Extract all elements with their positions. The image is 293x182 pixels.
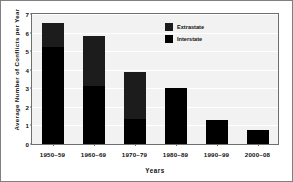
- gridline: [32, 107, 278, 108]
- y-tick-label: 4: [26, 66, 29, 73]
- y-tick-mark: [30, 144, 32, 145]
- bar-segment-interstate: [124, 119, 146, 144]
- plot-area: 01234567 1950–591960–691970–791980–89199…: [31, 13, 279, 145]
- legend-label: Extrastate: [177, 24, 204, 30]
- bar-stack: [247, 130, 269, 144]
- bar-stack: [165, 88, 187, 144]
- chart-legend: ExtrastateInterstate: [165, 23, 204, 43]
- x-tick-mark: [53, 144, 54, 146]
- bar-segment-interstate: [247, 130, 269, 144]
- y-tick-mark: [30, 14, 32, 15]
- legend-swatch-icon: [165, 23, 173, 31]
- bar-stack: [42, 23, 64, 144]
- y-tick-label: 3: [26, 85, 29, 92]
- y-tick-mark: [30, 125, 32, 126]
- x-tick-label: 1970–79: [122, 151, 148, 158]
- y-tick-label: 0: [26, 141, 29, 148]
- y-tick-label: 1: [26, 122, 29, 129]
- gridline: [32, 33, 278, 34]
- x-tick-label: 1990–99: [204, 151, 230, 158]
- gridline: [32, 14, 278, 15]
- y-axis-title: Average Number of Conflicts per Year: [13, 0, 20, 140]
- bar-segment-interstate: [83, 86, 105, 145]
- y-tick-mark: [30, 69, 32, 70]
- y-tick-label: 6: [26, 29, 29, 36]
- bar-segment-interstate: [165, 88, 187, 144]
- bar-stack: [206, 120, 228, 144]
- y-tick-mark: [30, 106, 32, 107]
- gridline: [32, 51, 278, 52]
- y-tick-label: 5: [26, 48, 29, 55]
- gridline: [32, 88, 278, 89]
- chart-figure: Average Number of Conflicts per Year 012…: [0, 0, 293, 182]
- legend-label: Interstate: [177, 36, 202, 42]
- y-tick-label: 7: [26, 11, 29, 18]
- bar-segment-interstate: [42, 47, 64, 145]
- x-tick-mark: [176, 144, 177, 146]
- y-tick-label: 2: [26, 103, 29, 110]
- x-tick-label: 2000–08: [245, 151, 271, 158]
- gridline: [32, 70, 278, 71]
- x-axis-title: Years: [31, 167, 279, 174]
- y-tick-mark: [30, 32, 32, 33]
- y-tick-mark: [30, 88, 32, 89]
- bar-segment-interstate: [206, 120, 228, 144]
- x-tick-mark: [135, 144, 136, 146]
- y-tick-mark: [30, 51, 32, 52]
- x-tick-label: 1980–89: [163, 151, 189, 158]
- x-tick-mark: [217, 144, 218, 146]
- bar-segment-extrastate: [83, 36, 105, 85]
- bar-segment-extrastate: [124, 72, 146, 119]
- legend-item: Interstate: [165, 35, 204, 43]
- x-tick-label: 1960–69: [81, 151, 107, 158]
- gridline: [32, 125, 278, 126]
- x-tick-mark: [94, 144, 95, 146]
- x-tick-mark: [258, 144, 259, 146]
- x-tick-label: 1950–59: [40, 151, 66, 158]
- plot-inner: 01234567 1950–591960–691970–791980–89199…: [32, 14, 278, 144]
- legend-swatch-icon: [165, 35, 173, 43]
- bar-stack: [83, 36, 105, 144]
- bar-stack: [124, 72, 146, 144]
- bar-segment-extrastate: [42, 23, 64, 46]
- legend-item: Extrastate: [165, 23, 204, 31]
